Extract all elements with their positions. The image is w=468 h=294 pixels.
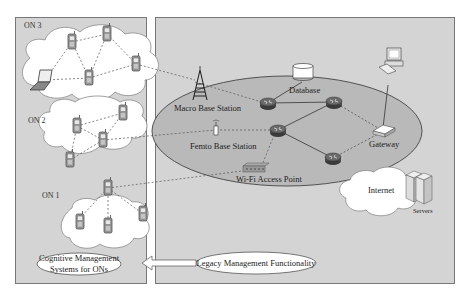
on2-label: ON 2 (28, 117, 46, 125)
phone-icon (85, 67, 93, 85)
gateway-label: Gateway (369, 140, 399, 149)
phone-icon (68, 31, 76, 49)
on3-label: ON 3 (24, 22, 42, 30)
network-architecture-diagram: ON 3 ON 2 ON 1 Macro Base Station Femto … (0, 0, 468, 294)
phone-icon (104, 177, 112, 195)
phone-icon (104, 215, 112, 233)
femto-base-station-label: Femto Base Station (190, 142, 257, 151)
cognitive-management-line1: Cognitive Management (37, 253, 121, 264)
phone-icon (73, 115, 81, 133)
router-icon (260, 98, 276, 110)
router-icon (325, 153, 341, 165)
phone-icon (66, 149, 74, 167)
wifi-access-point-label: Wi-Fi Access Point (236, 175, 302, 184)
router-icon (270, 125, 286, 137)
wifi-access-point-icon (243, 163, 269, 172)
legacy-management-text: Legacy Management Functionality (196, 258, 316, 269)
phone-icon (76, 211, 84, 229)
database-label: Database (289, 86, 320, 95)
cognitive-management-text: Cognitive Management Systems for ONs (37, 253, 121, 275)
phone-icon (103, 23, 111, 41)
on1-label: ON 1 (42, 192, 60, 200)
database-icon (293, 64, 313, 81)
phone-icon (119, 102, 127, 120)
phone-icon (132, 53, 140, 71)
internet-label: Internet (368, 186, 394, 195)
phone-icon (139, 203, 147, 221)
cognitive-management-line2: Systems for ONs (37, 264, 121, 275)
router-icon (326, 97, 342, 109)
macro-base-station-label: Macro Base Station (174, 104, 241, 113)
servers-icon (406, 171, 432, 204)
servers-label: Servers (413, 208, 433, 215)
phone-icon (99, 129, 107, 147)
